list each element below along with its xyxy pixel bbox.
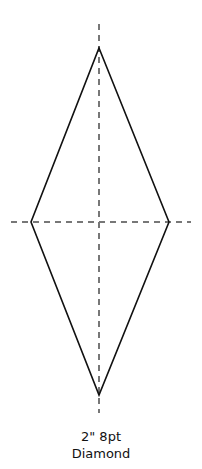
caption-size: 2" 8pt xyxy=(0,428,202,445)
caption-shape: Diamond xyxy=(0,445,202,462)
diamond-diagram xyxy=(0,0,202,469)
